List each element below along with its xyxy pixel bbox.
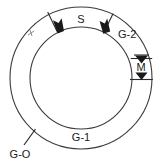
- ring-diagram-svg: S G-2 M G-1 G-O: [0, 0, 167, 163]
- label-sector-s: S: [77, 13, 84, 25]
- m-bottom-arrow-icon: [136, 73, 148, 81]
- label-sector-m: M: [136, 61, 145, 73]
- go-leader: [24, 129, 36, 145]
- upper-left-tick-icon: [28, 30, 34, 36]
- ring-diagram-canvas: S G-2 M G-1 G-O: [0, 0, 167, 163]
- inner-circle: [30, 27, 132, 129]
- s-sector-left-boundary: [48, 12, 64, 33]
- label-leader-go: G-O: [10, 148, 31, 160]
- label-sector-g2: G-2: [118, 28, 136, 40]
- label-ring-g1: G-1: [72, 131, 90, 143]
